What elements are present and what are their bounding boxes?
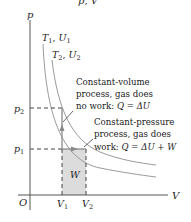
p-axis-label: p: [27, 9, 34, 20]
constant-pressure-line2: process, gas does: [94, 129, 171, 139]
work-label: W: [70, 169, 81, 180]
v2-label: V2: [82, 198, 93, 211]
isotherm-t2-label: T2, U2: [52, 49, 81, 62]
constant-volume-line2: process, gas does: [76, 89, 153, 99]
isotherm-t1-label: T1, U1: [42, 32, 71, 45]
up-arrow-icon: [60, 124, 65, 131]
constant-pressure-line3: work: Q = ΔU + W: [94, 142, 177, 152]
constant-volume-annotation: Constant-volume process, gas does no wor…: [76, 77, 153, 111]
v1-label: V1: [57, 198, 68, 211]
p2-label: p2: [14, 103, 24, 116]
origin-label: O: [19, 197, 27, 208]
constant-volume-line3: no work: Q = ΔU: [76, 101, 151, 111]
p1-label: p1: [14, 143, 24, 156]
constant-pressure-annotation: Constant-pressure process, gas does work…: [94, 117, 177, 152]
constant-pressure-line1: Constant-pressure: [94, 117, 174, 127]
pv-diagram: p, V p V O T1, U1 T2, U2 p2 p1 V1 V2 W C…: [0, 0, 191, 222]
title-partial: p, V: [78, 0, 100, 6]
v-axis-label: V: [172, 190, 181, 201]
constant-volume-line1: Constant-volume: [76, 77, 150, 87]
title-partial-text: p, V: [78, 0, 100, 6]
